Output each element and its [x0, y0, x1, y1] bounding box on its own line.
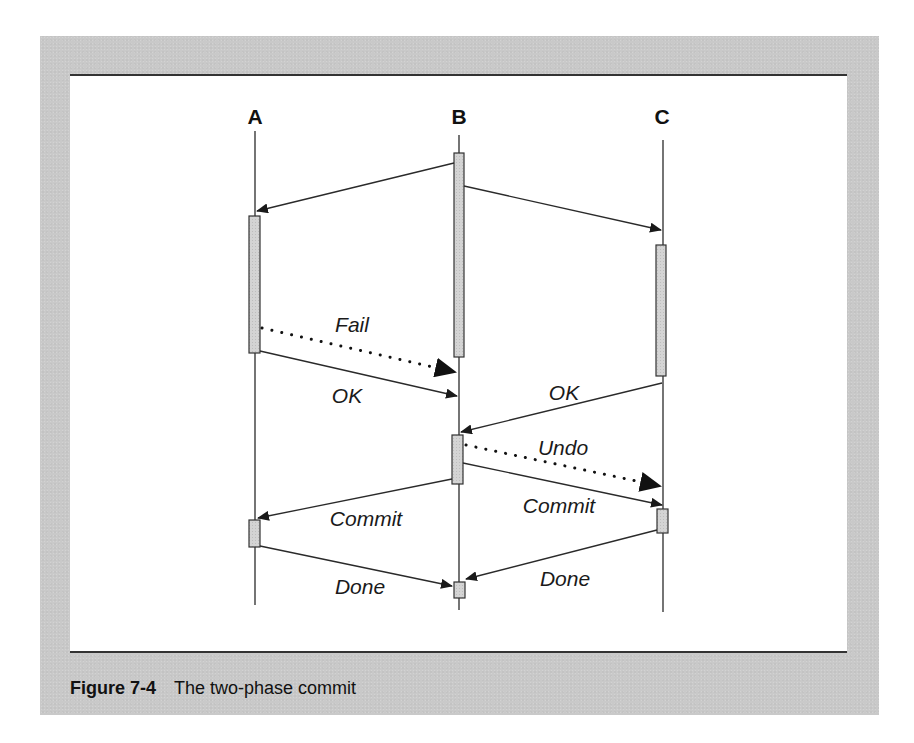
message-label-ok-c: OK [549, 381, 580, 404]
message-prepare-b-to-c [464, 186, 661, 230]
activation-b-done [454, 582, 465, 598]
message-label-undo: Undo [538, 436, 589, 459]
participant-b-label: B [451, 105, 466, 128]
message-label-commit-a: Commit [330, 507, 403, 530]
figure-number: Figure 7-4 [70, 678, 156, 698]
activation-a-commit [249, 520, 260, 547]
message-label-fail: Fail [335, 313, 370, 336]
figure-caption: Figure 7-4The two-phase commit [70, 678, 356, 699]
message-label-done-a: Done [335, 575, 385, 598]
message-prepare-b-to-a [257, 163, 454, 211]
sequence-diagram: A B C Fail OK OK Undo Commit Commit Done… [0, 0, 914, 743]
message-label-commit-c: Commit [523, 494, 596, 517]
message-label-ok-a: OK [332, 384, 363, 407]
participant-c-label: C [654, 105, 669, 128]
participant-a-label: A [247, 105, 262, 128]
activation-b-prepare [454, 153, 464, 357]
figure-caption-text: The two-phase commit [174, 678, 356, 698]
message-label-done-c: Done [540, 567, 590, 590]
activation-a-prepare [249, 216, 260, 353]
activation-c-prepare [656, 245, 666, 376]
activation-c-commit [657, 509, 668, 533]
activation-b-decide [452, 435, 463, 484]
